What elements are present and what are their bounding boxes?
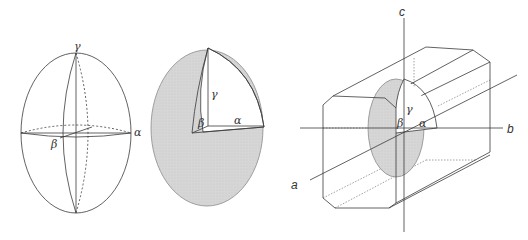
- label-beta-3: β: [396, 117, 403, 130]
- crystal-back-top: [426, 47, 490, 152]
- label-alpha-3: α: [419, 117, 427, 130]
- label-b-axis: b: [507, 122, 514, 136]
- label-gamma-1: γ: [74, 40, 81, 53]
- label-alpha-1: α: [134, 126, 142, 139]
- label-alpha-2: α: [234, 114, 242, 127]
- ellipsoid-cutaway-panel: [151, 48, 264, 206]
- figure-canvas: γ α β γ α β: [0, 0, 528, 240]
- label-a-axis: a: [291, 178, 298, 192]
- label-gamma-2: γ: [211, 88, 218, 101]
- label-c-axis: c: [399, 5, 405, 19]
- label-gamma-3: γ: [406, 103, 413, 116]
- crystal-panel: [300, 18, 517, 232]
- label-beta-1: β: [50, 138, 57, 151]
- ellipsoid-axes-panel: [21, 53, 131, 213]
- label-beta-2: β: [197, 117, 204, 130]
